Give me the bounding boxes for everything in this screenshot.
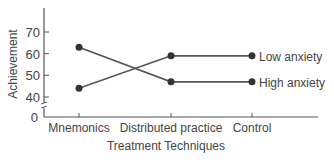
data-point-marker: [76, 85, 83, 92]
x-ticks: MnemonicsDistributed practiceControl: [48, 113, 271, 135]
series-legend-label: Low anxiety: [259, 50, 322, 64]
data-point-marker: [76, 44, 83, 51]
y-tick-label: 60: [26, 47, 40, 62]
x-axis-label: Treatment Techniques: [107, 139, 225, 153]
series-layer: Low anxietyHigh anxiety: [76, 44, 326, 92]
x-tick-label: Distributed practice: [120, 121, 223, 135]
y-axis-label: Achievement: [6, 29, 20, 99]
y-tick-label: 0: [31, 110, 38, 125]
line-chart: 040506070 MnemonicsDistributed practiceC…: [0, 0, 334, 160]
x-tick-label: Control: [233, 121, 272, 135]
x-tick-label: Mnemonics: [48, 121, 109, 135]
series-line: [79, 56, 252, 89]
y-tick-label: 50: [26, 68, 40, 83]
y-tick-label: 40: [26, 90, 40, 105]
y-ticks: 040506070: [26, 25, 49, 125]
data-point-marker: [168, 78, 175, 85]
y-tick-label: 70: [26, 25, 40, 40]
series-line: [79, 47, 252, 82]
data-point-marker: [168, 52, 175, 59]
data-point-marker: [249, 52, 256, 59]
data-point-marker: [249, 78, 256, 85]
axis-break-icon: [41, 102, 47, 108]
series-legend-label: High anxiety: [259, 76, 325, 90]
